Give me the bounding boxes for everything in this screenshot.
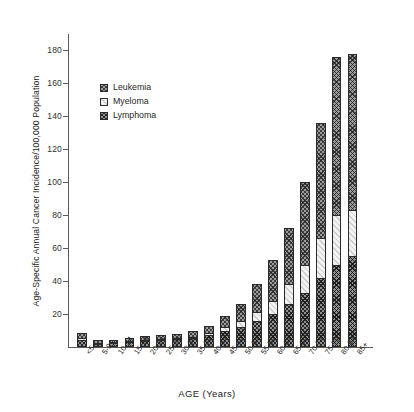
legend-label: Leukemia <box>113 83 151 92</box>
bar-segment-leukemia[interactable] <box>284 228 294 284</box>
bar-segment-myeloma[interactable] <box>268 301 278 314</box>
x-axis-title: AGE (Years) <box>0 388 414 399</box>
bar-stack[interactable] <box>300 182 310 347</box>
bar-segment-leukemia[interactable] <box>109 340 119 342</box>
legend-item-leukemia[interactable]: Leukemia <box>100 81 156 94</box>
legend-label: Myeloma <box>113 97 149 106</box>
bar-segment-myeloma[interactable] <box>300 265 310 293</box>
y-axis-tick-label: 20 <box>22 309 62 319</box>
bar-segment-leukemia[interactable] <box>316 123 326 238</box>
bar-stack[interactable] <box>93 340 103 347</box>
chart-legend: LeukemiaMyelomaLymphoma <box>100 81 156 123</box>
bar-segment-myeloma[interactable] <box>332 215 342 264</box>
bar-segment-myeloma[interactable] <box>252 312 262 321</box>
bar-segment-leukemia[interactable] <box>236 304 246 321</box>
bar-segment-leukemia[interactable] <box>220 316 230 328</box>
legend-swatch-myeloma-icon <box>100 98 108 106</box>
bar-stack[interactable] <box>77 333 87 347</box>
bar-segment-leukemia[interactable] <box>300 182 310 264</box>
y-axis-tick-label: 80 <box>22 210 62 220</box>
bar-segment-myeloma[interactable] <box>348 210 358 256</box>
bar-segment-leukemia[interactable] <box>204 326 214 333</box>
bar-segment-myeloma[interactable] <box>77 338 87 339</box>
bar-stack[interactable] <box>284 228 294 347</box>
bar-segment-leukemia[interactable] <box>332 57 342 215</box>
bar-segment-leukemia[interactable] <box>77 333 87 339</box>
legend-label: Lymphoma <box>113 111 156 120</box>
y-axis-title: Age-Specific Annual Cancer Incidence/100… <box>31 46 41 336</box>
legend-item-myeloma[interactable]: Myeloma <box>100 95 156 108</box>
bar-segment-leukemia[interactable] <box>348 54 358 211</box>
bar-segment-myeloma[interactable] <box>220 327 230 331</box>
bar-segment-leukemia[interactable] <box>93 340 103 342</box>
y-axis-tick-label: 160 <box>22 78 62 88</box>
bar-segment-leukemia[interactable] <box>252 284 262 312</box>
legend-item-lymphoma[interactable]: Lymphoma <box>100 109 156 122</box>
bar-stack[interactable] <box>348 54 358 347</box>
y-axis-tick-label: 40 <box>22 276 62 286</box>
y-axis-tick-label: 60 <box>22 243 62 253</box>
y-axis-tick-label: 100 <box>22 177 62 187</box>
bar-stack[interactable] <box>316 123 326 347</box>
bar-segment-myeloma[interactable] <box>284 284 294 304</box>
bar-segment-myeloma[interactable] <box>316 238 326 278</box>
bar-segment-lymphoma[interactable] <box>348 256 358 347</box>
chart-figure: Age-Specific Annual Cancer Incidence/100… <box>0 0 414 412</box>
bar-segment-lymphoma[interactable] <box>77 340 87 347</box>
bar-segment-myeloma[interactable] <box>109 342 119 343</box>
legend-swatch-lymphoma-icon <box>100 112 108 120</box>
bar-segment-myeloma[interactable] <box>93 343 103 344</box>
bar-stack[interactable] <box>332 57 342 347</box>
y-axis-tick-label: 180 <box>22 45 62 55</box>
bar-segment-leukemia[interactable] <box>268 260 278 301</box>
bar-segment-myeloma[interactable] <box>236 321 246 327</box>
y-axis-tick-label: 120 <box>22 144 62 154</box>
y-axis-tick-label: 140 <box>22 111 62 121</box>
legend-swatch-leukemia-icon <box>100 84 108 92</box>
